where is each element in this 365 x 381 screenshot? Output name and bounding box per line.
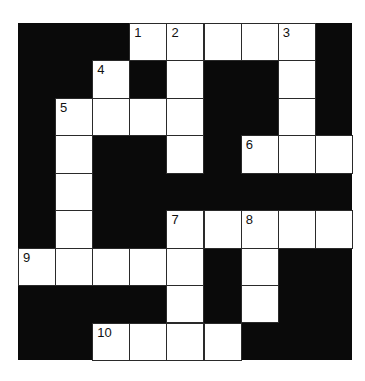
crossword-cell[interactable] bbox=[166, 98, 204, 136]
crossword-cell[interactable] bbox=[278, 210, 316, 248]
crossword-cell[interactable] bbox=[92, 98, 130, 136]
clue-number: 4 bbox=[97, 63, 104, 76]
crossword-cell[interactable] bbox=[204, 210, 242, 248]
crossword-cell[interactable] bbox=[278, 60, 316, 98]
clue-number: 1 bbox=[134, 26, 141, 39]
crossword-cell[interactable] bbox=[166, 248, 204, 286]
crossword-cell[interactable] bbox=[166, 60, 204, 98]
crossword-cell[interactable] bbox=[129, 323, 167, 361]
crossword-cell[interactable] bbox=[315, 210, 353, 248]
crossword-cell[interactable]: 3 bbox=[278, 23, 316, 61]
crossword-cell[interactable]: 6 bbox=[241, 135, 279, 173]
clue-number: 7 bbox=[171, 213, 178, 226]
crossword-cell[interactable] bbox=[166, 135, 204, 173]
crossword-cell[interactable] bbox=[92, 248, 130, 286]
crossword-cell[interactable] bbox=[129, 98, 167, 136]
crossword-cell[interactable]: 8 bbox=[241, 210, 279, 248]
crossword-cell[interactable] bbox=[278, 98, 316, 136]
crossword-cell[interactable] bbox=[204, 323, 242, 361]
clue-number: 10 bbox=[97, 326, 111, 339]
crossword-cell[interactable] bbox=[278, 135, 316, 173]
clue-number: 6 bbox=[246, 138, 253, 151]
crossword-cell[interactable] bbox=[315, 135, 353, 173]
clue-number: 8 bbox=[246, 213, 253, 226]
crossword-cell[interactable]: 10 bbox=[92, 323, 130, 361]
crossword-cell[interactable] bbox=[55, 210, 93, 248]
clue-number: 3 bbox=[283, 26, 290, 39]
crossword-cell[interactable]: 7 bbox=[166, 210, 204, 248]
crossword-cell[interactable] bbox=[204, 23, 242, 61]
clue-number: 5 bbox=[60, 101, 67, 114]
crossword-cell[interactable] bbox=[166, 285, 204, 323]
crossword-cell[interactable]: 9 bbox=[18, 248, 56, 286]
crossword-cell[interactable] bbox=[55, 135, 93, 173]
crossword-cell[interactable]: 2 bbox=[166, 23, 204, 61]
crossword-cell[interactable] bbox=[241, 248, 279, 286]
crossword-cell[interactable] bbox=[241, 285, 279, 323]
crossword-cell[interactable]: 5 bbox=[55, 98, 93, 136]
crossword-cell[interactable] bbox=[55, 248, 93, 286]
clue-number: 2 bbox=[171, 26, 178, 39]
crossword-cell[interactable]: 4 bbox=[92, 60, 130, 98]
crossword-cell[interactable] bbox=[129, 248, 167, 286]
crossword-cell[interactable] bbox=[55, 173, 93, 211]
crossword-grid: 12345678910 bbox=[18, 23, 352, 360]
crossword-cell[interactable] bbox=[166, 323, 204, 361]
crossword-cell[interactable] bbox=[241, 23, 279, 61]
crossword-cell[interactable]: 1 bbox=[129, 23, 167, 61]
clue-number: 9 bbox=[23, 251, 30, 264]
